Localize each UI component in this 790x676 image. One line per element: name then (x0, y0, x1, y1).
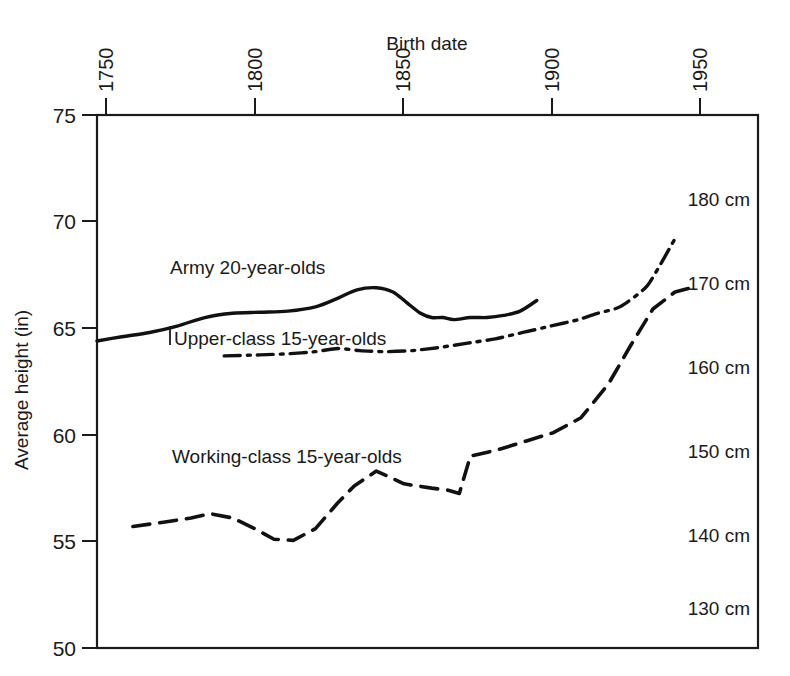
series-line-working-class (133, 288, 692, 541)
y-tick-label-60: 60 (53, 424, 76, 447)
secondary-axis-cm-labels: 180 cm 170 cm 160 cm 150 cm 140 cm 130 c… (688, 189, 750, 619)
y-tick-label-50: 50 (53, 637, 76, 660)
x-tick-label-1900: 1900 (541, 48, 563, 93)
y-axis-ticks (82, 115, 97, 648)
x-tick-label-1950: 1950 (689, 48, 711, 93)
y-tick-label-70: 70 (53, 210, 76, 233)
cm-label-140: 140 cm (688, 525, 750, 546)
x-tick-label-1850: 1850 (392, 48, 414, 93)
y-tick-label-55: 55 (53, 530, 76, 553)
x-axis-ticks (106, 98, 700, 115)
x-tick-label-1800: 1800 (244, 48, 266, 93)
series-label-working-class: Working-class 15-year-olds (172, 446, 402, 467)
plot-frame (97, 115, 758, 648)
x-tick-label-1750: 1750 (95, 48, 117, 93)
y-axis-tick-labels: 75 70 65 60 55 50 (53, 104, 76, 660)
y-axis-title: Average height (in) (11, 310, 32, 470)
series-label-army: Army 20-year-olds (170, 257, 325, 278)
cm-label-150: 150 cm (688, 441, 750, 462)
chart-container: Birth date 1750 1800 1850 1900 1950 Aver… (0, 0, 790, 676)
cm-label-130: 130 cm (688, 598, 750, 619)
cm-label-160: 160 cm (688, 357, 750, 378)
series-label-upper-class: Upper-class 15-year-olds (174, 328, 386, 349)
x-axis-tick-labels: 1750 1800 1850 1900 1950 (95, 48, 711, 93)
height-by-birth-date-chart: Birth date 1750 1800 1850 1900 1950 Aver… (0, 0, 790, 676)
y-tick-label-65: 65 (53, 317, 76, 340)
y-tick-label-75: 75 (53, 104, 76, 127)
cm-label-170: 170 cm (688, 273, 750, 294)
cm-label-180: 180 cm (688, 189, 750, 210)
